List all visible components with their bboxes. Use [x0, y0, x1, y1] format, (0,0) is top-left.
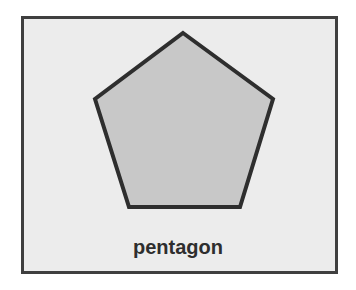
shape-label: pentagon — [0, 236, 356, 259]
pentagon-shape — [95, 33, 273, 207]
